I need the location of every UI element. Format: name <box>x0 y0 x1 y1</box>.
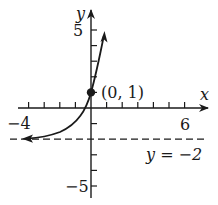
x-max-label: 6 <box>180 115 190 134</box>
x-axis-label: x <box>200 85 209 104</box>
point-marker <box>87 88 95 96</box>
coordinate-plane: y x 5 −5 −4 6 (0, 1) y = −2 <box>0 0 218 205</box>
x-min-label: −4 <box>7 114 31 133</box>
graph-figure: y x 5 −5 −4 6 (0, 1) y = −2 <box>0 0 218 205</box>
y-min-label: −5 <box>65 177 89 196</box>
point-label: (0, 1) <box>101 83 144 102</box>
asymptote-label: y = −2 <box>145 145 202 164</box>
y-max-label: 5 <box>73 21 83 40</box>
curve-arrow-up-icon <box>101 31 108 43</box>
x-ticks <box>29 102 185 108</box>
